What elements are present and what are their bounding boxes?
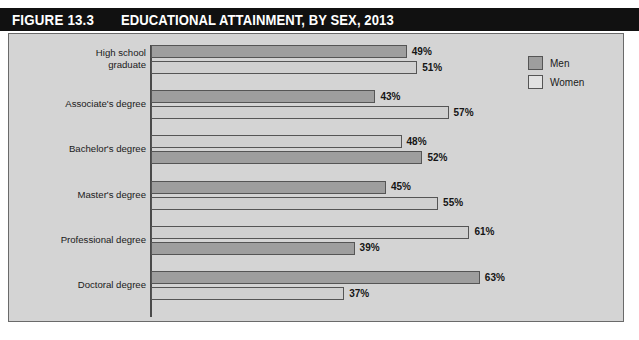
bar-group: Associate's degree43%57% xyxy=(9,90,624,135)
figure-number: FIGURE 13.3 xyxy=(12,12,94,28)
category-label: Bachelor's degree xyxy=(16,143,146,155)
chart-legend: MenWomen xyxy=(528,56,614,94)
legend-label: Men xyxy=(550,58,569,69)
bar-women xyxy=(151,151,422,164)
category-label: Master's degree xyxy=(16,189,146,201)
bar-value-label: 43% xyxy=(380,90,400,103)
legend-label: Women xyxy=(550,77,584,88)
bar-value-label: 63% xyxy=(485,271,505,284)
bar-row: 51% xyxy=(151,61,467,74)
bar-row: 61% xyxy=(151,226,519,239)
bar-value-label: 61% xyxy=(474,225,494,238)
bar-row: 55% xyxy=(151,197,488,210)
bar-women xyxy=(151,197,438,210)
bar-group: Doctoral degree63%37% xyxy=(9,271,624,316)
legend-item-women[interactable]: Women xyxy=(528,75,614,89)
category-label: Professional degree xyxy=(16,234,146,246)
bar-women xyxy=(151,61,417,74)
bar-value-label: 48% xyxy=(407,135,427,148)
bar-row: 48% xyxy=(151,135,452,148)
chart-panel: High school graduate49%51%Associate's de… xyxy=(8,33,624,322)
figure-title-bar: FIGURE 13.3 EDUCATIONAL ATTAINMENT, BY S… xyxy=(0,8,639,31)
bar-row: 52% xyxy=(151,151,472,164)
bar-row: 45% xyxy=(151,181,436,194)
bar-row: 49% xyxy=(151,45,457,58)
legend-swatch-icon xyxy=(528,56,543,70)
bar-group: Master's degree45%55% xyxy=(9,181,624,226)
bar-row: 63% xyxy=(151,271,530,284)
page-title: EDUCATIONAL ATTAINMENT, BY SEX, 2013 xyxy=(121,12,394,28)
bar-group: Professional degree61%39% xyxy=(9,226,624,271)
bar-row: 39% xyxy=(151,242,405,255)
category-label: Associate's degree xyxy=(16,98,146,110)
legend-item-men[interactable]: Men xyxy=(528,56,614,70)
bar-value-label: 49% xyxy=(412,45,432,58)
legend-swatch-icon xyxy=(528,75,543,89)
bar-group: Bachelor's degree48%52% xyxy=(9,135,624,180)
category-label: Doctoral degree xyxy=(16,279,146,291)
bar-value-label: 52% xyxy=(427,151,447,164)
bar-row: 57% xyxy=(151,106,499,119)
bar-value-label: 51% xyxy=(422,61,442,74)
bar-value-label: 37% xyxy=(349,287,369,300)
bar-value-label: 45% xyxy=(391,180,411,193)
bar-men xyxy=(151,181,386,194)
category-label: High school graduate xyxy=(16,47,146,70)
bar-women xyxy=(151,287,344,300)
bar-men xyxy=(151,226,469,239)
bar-men xyxy=(151,271,480,284)
bar-men xyxy=(151,90,375,103)
bar-row: 43% xyxy=(151,90,425,103)
bar-value-label: 57% xyxy=(454,106,474,119)
bar-value-label: 55% xyxy=(443,196,463,209)
bar-women xyxy=(151,106,449,119)
bar-men xyxy=(151,45,407,58)
bar-row: 37% xyxy=(151,287,394,300)
bar-value-label: 39% xyxy=(360,241,380,254)
bar-men xyxy=(151,135,402,148)
bar-women xyxy=(151,242,355,255)
